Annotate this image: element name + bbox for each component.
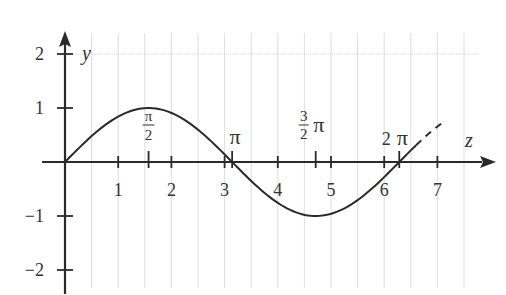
x-tick-label: 2 [167, 180, 176, 200]
curve-dashed-continuation [416, 121, 445, 145]
y-tick-label: 1 [35, 98, 44, 118]
x-tick-label: 3 [220, 180, 229, 200]
sine-chart: 1234567π2π32π2π21−1−2yz [0, 0, 506, 295]
y-tick-label: −2 [25, 260, 44, 280]
axes [42, 31, 496, 294]
x-tick-label: 4 [273, 180, 282, 200]
svg-text:2: 2 [145, 127, 153, 143]
y-axis-label: y [80, 42, 91, 65]
svg-text:π: π [230, 124, 241, 149]
pi-tick-label: π2 [143, 108, 155, 143]
y-tick-label: 2 [35, 44, 44, 64]
x-tick-label: 5 [327, 180, 336, 200]
x-axis-label: z [464, 129, 473, 151]
svg-text:π: π [145, 108, 153, 124]
pi-tick-label: π [230, 124, 241, 149]
svg-text:π: π [313, 112, 324, 137]
pi-tick-label: 2π [382, 125, 408, 150]
x-tick-label: 7 [433, 180, 442, 200]
y-tick-label: −1 [25, 206, 44, 226]
x-axis-arrow-icon [480, 156, 496, 168]
svg-text:2: 2 [300, 126, 308, 142]
svg-text:2: 2 [382, 129, 391, 149]
x-tick-label: 1 [114, 180, 123, 200]
svg-text:π: π [397, 125, 408, 150]
pi-tick-label: 32π [299, 108, 325, 142]
svg-text:3: 3 [300, 108, 308, 124]
x-tick-label: 6 [380, 180, 389, 200]
